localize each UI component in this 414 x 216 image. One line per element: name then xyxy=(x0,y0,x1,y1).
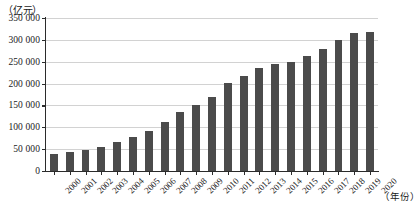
x-tick-mark xyxy=(196,172,197,175)
gridline xyxy=(46,18,378,19)
x-tick-mark xyxy=(307,172,308,175)
x-axis-labels: 2000200120022003200420052006200720082009… xyxy=(46,172,378,216)
x-tick-mark xyxy=(354,172,355,175)
x-tick-mark xyxy=(86,172,87,175)
bar xyxy=(303,56,311,171)
x-tick-mark xyxy=(212,172,213,175)
bar xyxy=(66,152,74,171)
y-tick-mark xyxy=(42,105,46,106)
x-tick-mark xyxy=(101,172,102,175)
x-tick-mark xyxy=(244,172,245,175)
bar xyxy=(319,49,327,171)
gridline xyxy=(46,84,378,85)
x-tick-label: 2016 xyxy=(316,176,336,196)
y-tick-mark xyxy=(42,18,46,19)
y-tick-mark xyxy=(42,149,46,150)
x-tick-label: 2011 xyxy=(237,176,256,195)
bar xyxy=(97,147,105,171)
y-tick-label: 250 000 xyxy=(8,57,40,67)
x-tick-mark xyxy=(149,172,150,175)
y-tick-label: 100 000 xyxy=(8,122,40,132)
bar xyxy=(161,122,169,171)
bar xyxy=(129,137,137,171)
y-tick-label: 300 000 xyxy=(8,35,40,45)
y-tick-label: 200 000 xyxy=(8,79,40,89)
bar xyxy=(366,32,374,171)
x-tick-mark xyxy=(70,172,71,175)
x-tick-mark xyxy=(165,172,166,175)
x-tick-mark xyxy=(228,172,229,175)
x-tick-label: 2015 xyxy=(300,176,320,196)
bar xyxy=(82,150,90,171)
x-tick-mark xyxy=(133,172,134,175)
gridline xyxy=(46,62,378,63)
x-tick-mark xyxy=(54,172,55,175)
x-axis-unit-label: （年份） xyxy=(380,189,414,203)
bar xyxy=(192,105,200,171)
y-tick-mark xyxy=(42,84,46,85)
x-tick-mark xyxy=(117,172,118,175)
y-tick-mark xyxy=(42,62,46,63)
plot-area: 350 000300 000250 000200 000150 000100 0… xyxy=(46,18,378,171)
bar xyxy=(287,62,295,171)
bar xyxy=(255,68,263,171)
bar xyxy=(335,40,343,171)
bar xyxy=(208,97,216,171)
y-tick-label: 0 xyxy=(35,166,40,176)
y-tick-mark xyxy=(42,40,46,41)
x-tick-label: 2001 xyxy=(79,176,99,196)
x-tick-label: 2005 xyxy=(142,176,162,196)
x-tick-mark xyxy=(275,172,276,175)
y-tick-label: 150 000 xyxy=(8,100,40,110)
bar xyxy=(50,154,58,171)
y-tick-mark xyxy=(42,127,46,128)
bar xyxy=(113,142,121,171)
x-tick-mark xyxy=(338,172,339,175)
gridline xyxy=(46,40,378,41)
bar-chart: （亿元） 350 000300 000250 000200 000150 000… xyxy=(0,0,414,216)
y-tick-label: 350 000 xyxy=(8,13,40,23)
bar xyxy=(350,33,358,171)
x-tick-mark xyxy=(180,172,181,175)
x-tick-label: 2000 xyxy=(63,176,83,196)
x-tick-mark xyxy=(370,172,371,175)
bar xyxy=(271,64,279,171)
bar xyxy=(224,83,232,171)
x-tick-mark xyxy=(259,172,260,175)
bar xyxy=(176,112,184,171)
bar xyxy=(240,76,248,171)
x-tick-label: 2006 xyxy=(158,176,178,196)
x-tick-mark xyxy=(323,172,324,175)
x-tick-mark xyxy=(291,172,292,175)
y-tick-label: 50 000 xyxy=(13,144,40,154)
bar xyxy=(145,131,153,171)
